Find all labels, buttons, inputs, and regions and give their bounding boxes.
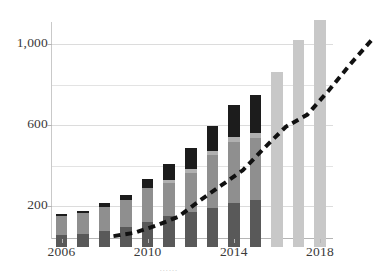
- bar-segment: [163, 164, 175, 180]
- bar-segment: [77, 234, 89, 246]
- bar-segment: [99, 203, 111, 207]
- x-axis-tick-label: 2010: [134, 244, 162, 260]
- x-axis-tick-mark: [148, 239, 149, 243]
- bar-segment: [99, 231, 111, 246]
- figure-caption: ……: [0, 263, 337, 273]
- bar-segment: [56, 216, 68, 235]
- bar[interactable]: [185, 148, 197, 246]
- bar-segment: [228, 137, 240, 142]
- bar-segment: [293, 40, 305, 247]
- bar[interactable]: [142, 179, 154, 247]
- bar-segment: [185, 169, 197, 173]
- bar-segment: [250, 138, 262, 200]
- bar-segment: [163, 216, 175, 246]
- x-axis-tick-label: 2018: [306, 244, 334, 260]
- bar-segment: [99, 207, 111, 231]
- bar-segment: [120, 195, 132, 200]
- bar-segment: [185, 173, 197, 212]
- bar-segment: [250, 95, 262, 133]
- bar[interactable]: [271, 72, 283, 246]
- bar-segment: [207, 208, 219, 246]
- bar-segment: [185, 212, 197, 246]
- bar-segment: [314, 20, 326, 247]
- y-axis-tick-label: 1,000: [4, 35, 48, 51]
- bar[interactable]: [163, 163, 175, 246]
- bar-segment: [142, 188, 154, 222]
- bar[interactable]: [207, 126, 219, 246]
- bar-segment: [163, 180, 175, 183]
- bar[interactable]: [293, 40, 305, 247]
- x-axis-tick-label: 2014: [220, 244, 248, 260]
- bar-segment: [207, 151, 219, 155]
- bar-segment: [77, 211, 89, 213]
- bar-segment: [120, 200, 132, 227]
- bar[interactable]: [120, 195, 132, 247]
- bar-segment: [207, 155, 219, 208]
- bar[interactable]: [314, 20, 326, 247]
- bar-segment: [250, 133, 262, 138]
- bar-segment: [77, 213, 89, 234]
- bar[interactable]: [99, 203, 111, 246]
- x-axis-tick-mark: [320, 239, 321, 243]
- bar-segment: [185, 148, 197, 168]
- bar-segment: [228, 105, 240, 137]
- bar-segment: [271, 72, 283, 246]
- bar-segment: [120, 227, 132, 246]
- y-axis-tick-label: 200: [4, 197, 48, 213]
- x-axis-tick-label: 2006: [48, 244, 76, 260]
- y-axis-tick-label: 600: [4, 116, 48, 132]
- x-axis-tick-mark: [234, 239, 235, 243]
- x-axis-tick-mark: [62, 239, 63, 243]
- bar-segment: [56, 214, 68, 216]
- bar-segment: [142, 179, 154, 188]
- bar[interactable]: [77, 211, 89, 247]
- bar-segment: [228, 142, 240, 203]
- bar-segment: [207, 126, 219, 151]
- bar-segment: [250, 200, 262, 247]
- bar[interactable]: [250, 95, 262, 247]
- plot-area: [52, 22, 333, 238]
- bar-segment: [163, 183, 175, 216]
- bar[interactable]: [228, 105, 240, 247]
